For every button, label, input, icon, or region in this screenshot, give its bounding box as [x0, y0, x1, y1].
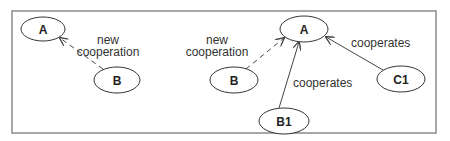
right-node-a: A: [280, 16, 328, 42]
right-edge-new-cooperation: [246, 38, 284, 69]
left-node-a-label: A: [39, 23, 48, 37]
right-node-b1-label: B1: [276, 115, 292, 129]
left-edge-label-line2: cooperation: [77, 45, 140, 59]
right-edge-new-label-line2: cooperation: [186, 45, 249, 59]
left-panel: A B new cooperation: [21, 17, 140, 93]
right-edge-b1-label: cooperates: [293, 76, 352, 90]
right-node-a-label: A: [300, 23, 309, 37]
right-node-c1-label: C1: [393, 73, 409, 87]
right-node-b: B: [210, 67, 258, 93]
right-node-b-label: B: [230, 74, 239, 88]
right-edge-c1-label: cooperates: [351, 36, 410, 50]
left-node-b-label: B: [113, 74, 122, 88]
diagram-canvas: A B new cooperation A B B1 C1: [0, 0, 450, 141]
right-panel: A B B1 C1 new cooperation cooperates coo…: [186, 16, 425, 134]
right-node-b1: B1: [259, 108, 309, 134]
right-node-c1: C1: [377, 66, 425, 92]
left-node-b: B: [94, 67, 140, 93]
left-node-a: A: [21, 17, 65, 41]
right-edge-b1-cooperates: [279, 42, 299, 108]
